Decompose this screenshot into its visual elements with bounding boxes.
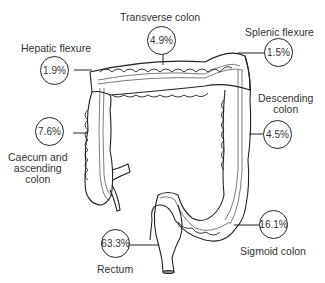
transverse-colon-shape <box>90 53 250 95</box>
sigmoid-colon-label: Sigmoid colon <box>240 246 306 257</box>
transverse-colon-label: Transverse colon <box>120 12 200 23</box>
sigmoid-colon-percent: 16.1% <box>259 210 288 239</box>
splenic-flexure-percent: 1.5% <box>264 38 293 67</box>
transverse-colon-percent: 4.9% <box>147 26 176 55</box>
hepatic-flexure-label: Hepatic flexure <box>21 43 91 54</box>
caecum-ascending-percent: 7.6% <box>35 117 64 146</box>
descending-colon-percent: 4.5% <box>263 120 292 149</box>
ascending-colon-shape <box>85 92 113 205</box>
descending-colon-label-line2: colon <box>258 104 313 115</box>
colon-diagram: Transverse colon 4.9% Splenic flexure 1.… <box>0 0 325 283</box>
descending-colon-label: Descending colon <box>258 93 313 115</box>
rectum-percent: 63.3% <box>101 229 130 258</box>
caecum-label-line3: colon <box>8 174 68 185</box>
splenic-flexure-label: Splenic flexure <box>245 27 314 38</box>
rectum-label: Rectum <box>97 264 133 275</box>
hepatic-flexure-percent: 1.9% <box>40 56 69 85</box>
caecum-ascending-label: Caecum and ascending colon <box>8 152 68 185</box>
